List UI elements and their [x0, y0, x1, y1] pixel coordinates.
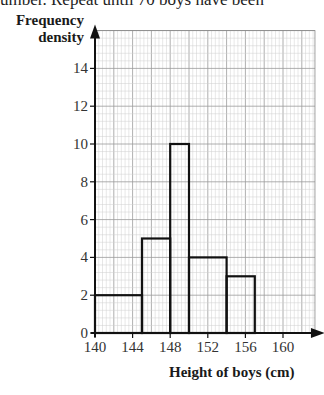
- x-tick-label: 144: [121, 339, 144, 355]
- y-tick-label: 6: [81, 212, 89, 228]
- x-tick-label: 140: [84, 339, 107, 355]
- histogram-bar: [142, 239, 170, 334]
- x-tick-label: 160: [272, 339, 295, 355]
- histogram-bar: [227, 276, 255, 333]
- x-axis-arrow-icon: [311, 328, 324, 338]
- histogram-bar: [170, 144, 189, 333]
- histogram-chart: 02468101214140144148152156160: [0, 0, 324, 395]
- x-tick-label: 156: [234, 339, 257, 355]
- x-tick-label: 152: [197, 339, 220, 355]
- y-tick-label: 12: [73, 98, 88, 114]
- histogram-bar: [95, 295, 142, 333]
- y-tick-label: 10: [73, 136, 88, 152]
- y-axis-arrow-icon: [90, 25, 100, 39]
- y-tick-label: 14: [73, 60, 89, 76]
- y-tick-label: 2: [81, 287, 89, 303]
- y-tick-label: 4: [81, 249, 89, 265]
- x-tick-label: 148: [159, 339, 182, 355]
- y-tick-label: 8: [81, 174, 89, 190]
